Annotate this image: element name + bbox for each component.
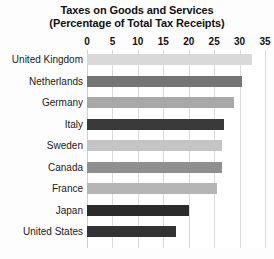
gridline-35: [265, 50, 266, 248]
bar-germany: [87, 97, 234, 108]
x-tick-label-30: 30: [234, 36, 245, 47]
y-label-germany: Germany: [0, 97, 83, 108]
x-tick-label-0: 0: [84, 36, 90, 47]
y-label-france: France: [0, 183, 83, 194]
x-tick-label-20: 20: [183, 36, 194, 47]
bar-netherlands: [87, 76, 242, 87]
chart-title-block: Taxes on Goods and Services (Percentage …: [0, 4, 274, 30]
y-label-japan: Japan: [0, 205, 83, 216]
y-label-united-kingdom: United Kingdom: [0, 54, 83, 65]
chart-title: Taxes on Goods and Services: [0, 4, 274, 17]
y-label-sweden: Sweden: [0, 140, 83, 151]
x-tick-label-10: 10: [132, 36, 143, 47]
bar-italy: [87, 119, 224, 130]
chart-subtitle: (Percentage of Total Tax Receipts): [0, 17, 274, 30]
bar-france: [87, 183, 217, 194]
x-tick-label-15: 15: [158, 36, 169, 47]
bar-chart: Taxes on Goods and Services (Percentage …: [0, 0, 274, 259]
bars-layer: [87, 50, 265, 248]
bar-united-kingdom: [87, 54, 252, 65]
x-axis-tick-labels: 05101520253035: [0, 36, 274, 49]
bar-united-states: [87, 226, 176, 237]
x-tick-label-5: 5: [110, 36, 116, 47]
x-tick-label-25: 25: [209, 36, 220, 47]
y-label-united-states: United States: [0, 226, 83, 237]
x-tick-label-35: 35: [259, 36, 270, 47]
bar-sweden: [87, 140, 222, 151]
bar-canada: [87, 162, 222, 173]
plot-area: [87, 50, 266, 248]
y-axis-category-labels: United KingdomNetherlandsGermanyItalySwe…: [0, 50, 83, 248]
bar-japan: [87, 205, 189, 216]
y-label-netherlands: Netherlands: [0, 76, 83, 87]
y-label-italy: Italy: [0, 119, 83, 130]
y-label-canada: Canada: [0, 162, 83, 173]
